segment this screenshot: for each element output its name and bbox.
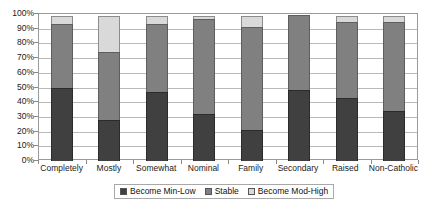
x-tick-label-2: Mostly bbox=[85, 164, 132, 173]
bar-stack[interactable] bbox=[241, 13, 263, 160]
x-tick-label-8: Non-Catholic bbox=[369, 164, 418, 173]
bar-slot bbox=[86, 13, 134, 160]
chart-legend: Become Min-LowStableBecome Mod-High bbox=[114, 184, 334, 199]
bar-segment[interactable] bbox=[288, 90, 310, 161]
legend-label: Become Mod-High bbox=[258, 187, 328, 196]
bar-slot bbox=[323, 13, 371, 160]
y-tick-label: 10% bbox=[0, 141, 34, 150]
x-tick-label-4: Nominal bbox=[180, 164, 227, 173]
bar-segment[interactable] bbox=[241, 130, 263, 161]
legend-item-1[interactable]: Become Min-Low bbox=[120, 187, 196, 196]
stacked-bar-chart: 0%10%20%30%40%50%60%70%80%90%100% Comple… bbox=[0, 0, 426, 208]
legend-swatch-icon bbox=[248, 188, 255, 195]
legend-item-2[interactable]: Stable bbox=[205, 187, 239, 196]
x-tick-label-1: Completely bbox=[38, 164, 85, 173]
bars-layer bbox=[38, 13, 418, 160]
bar-segment[interactable] bbox=[98, 16, 120, 53]
bar-segment[interactable] bbox=[193, 114, 215, 161]
bar-slot bbox=[276, 13, 324, 160]
bar-segment[interactable] bbox=[336, 98, 358, 161]
legend-item-3[interactable]: Become Mod-High bbox=[248, 187, 328, 196]
y-axis: 0%10%20%30%40%50%60%70%80%90%100% bbox=[0, 13, 34, 160]
bar-stack[interactable] bbox=[288, 13, 310, 160]
y-tick-label: 100% bbox=[0, 9, 34, 18]
x-tick-mark bbox=[418, 160, 419, 164]
bar-segment[interactable] bbox=[383, 22, 405, 112]
legend-label: Stable bbox=[215, 187, 239, 196]
bar-slot bbox=[38, 13, 86, 160]
y-tick-label: 30% bbox=[0, 112, 34, 121]
legend-label: Become Min-Low bbox=[130, 187, 196, 196]
bar-stack[interactable] bbox=[51, 13, 73, 160]
x-tick-label-3: Somewhat bbox=[133, 164, 180, 173]
x-tick-label-7: Raised bbox=[322, 164, 369, 173]
x-axis-labels: CompletelyMostlySomewhatNominalFamilySec… bbox=[38, 164, 418, 173]
bar-slot bbox=[371, 13, 419, 160]
bar-segment[interactable] bbox=[288, 15, 310, 91]
bar-segment[interactable] bbox=[146, 24, 168, 93]
bar-segment[interactable] bbox=[98, 52, 120, 121]
bar-stack[interactable] bbox=[146, 13, 168, 160]
bar-segment[interactable] bbox=[51, 88, 73, 162]
y-tick-label: 90% bbox=[0, 23, 34, 32]
bar-segment[interactable] bbox=[383, 111, 405, 161]
y-tick-label: 40% bbox=[0, 97, 34, 106]
bar-stack[interactable] bbox=[383, 13, 405, 160]
bar-segment[interactable] bbox=[336, 22, 358, 98]
legend-swatch-icon bbox=[120, 188, 127, 195]
bar-slot bbox=[181, 13, 229, 160]
bar-segment[interactable] bbox=[98, 120, 120, 161]
x-tick-label-6: Secondary bbox=[274, 164, 321, 173]
y-tick-label: 0% bbox=[0, 156, 34, 165]
y-tick-label: 20% bbox=[0, 126, 34, 135]
bar-segment[interactable] bbox=[193, 19, 215, 115]
y-tick-label: 80% bbox=[0, 38, 34, 47]
bar-segment[interactable] bbox=[241, 27, 263, 131]
bar-slot bbox=[133, 13, 181, 160]
bar-slot bbox=[228, 13, 276, 160]
bar-segment[interactable] bbox=[146, 92, 168, 161]
legend-swatch-icon bbox=[205, 188, 212, 195]
bar-stack[interactable] bbox=[336, 13, 358, 160]
y-tick-label: 70% bbox=[0, 53, 34, 62]
x-tick-label-5: Family bbox=[227, 164, 274, 173]
bar-stack[interactable] bbox=[193, 13, 215, 160]
y-tick-label: 50% bbox=[0, 82, 34, 91]
bar-segment[interactable] bbox=[51, 24, 73, 89]
bar-stack[interactable] bbox=[98, 13, 120, 160]
y-tick-label: 60% bbox=[0, 68, 34, 77]
